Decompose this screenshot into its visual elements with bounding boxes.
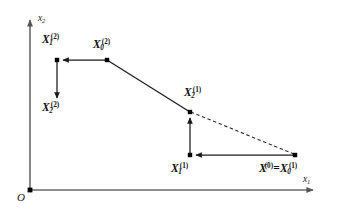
point-label-x0-start: X(0)=X0(1) bbox=[259, 163, 297, 176]
point-label-x0-2: X0(2) bbox=[93, 39, 110, 52]
point-marker-x0-start bbox=[293, 153, 297, 157]
y-axis-label-sub: 2 bbox=[42, 17, 45, 24]
point-marker-x1-1 bbox=[188, 153, 192, 157]
point-label-x1-1: X1(1) bbox=[171, 163, 188, 176]
x-axis-label-sub: 1 bbox=[307, 178, 310, 185]
y-axis-label: x2 bbox=[38, 14, 45, 24]
search-path-diagram: x2 x1 O X1(2) X0(2) X2(2) X2(1) X1(1) X(… bbox=[0, 0, 337, 214]
point-label-x1-2: X1(2) bbox=[42, 34, 59, 47]
point-label-x2-1: X2(1) bbox=[184, 87, 201, 100]
point-label-x2-2: X2(2) bbox=[42, 102, 59, 115]
point-label-x2-2-sup: (2) bbox=[51, 101, 59, 109]
extrapolation-dashed-line bbox=[192, 113, 294, 155]
point-label-x0-start-sup2: (1) bbox=[289, 162, 297, 170]
point-marker-x1-2 bbox=[55, 58, 59, 62]
point-markers bbox=[55, 58, 297, 157]
point-marker-x0-2 bbox=[105, 58, 109, 62]
origin-marker bbox=[28, 188, 33, 193]
segment-pattern-move bbox=[107, 60, 190, 112]
point-label-x0-2-sup: (2) bbox=[102, 38, 110, 46]
point-label-x1-2-sup: (2) bbox=[51, 33, 59, 41]
point-label-x2-1-sup: (1) bbox=[193, 86, 201, 94]
point-label-x1-1-sup: (1) bbox=[180, 162, 188, 170]
point-label-x0-start-eq: = bbox=[273, 162, 280, 174]
point-marker-x2-1 bbox=[188, 110, 192, 114]
origin-label: O bbox=[17, 192, 25, 203]
x-axis-label: x1 bbox=[303, 175, 310, 185]
point-label-x0-start-sup: (0) bbox=[265, 162, 273, 170]
